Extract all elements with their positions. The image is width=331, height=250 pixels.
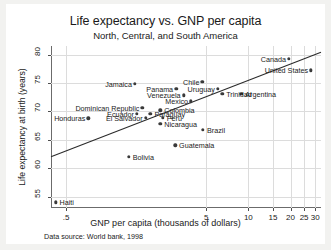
x-tick-mark: [66, 208, 67, 211]
data-point-label: Canada: [261, 54, 286, 63]
y-axis-title: Life expectancy at birth (years): [17, 46, 29, 208]
y-tick-label: 65: [33, 132, 42, 148]
y-tick-mark: [48, 55, 51, 56]
chart-subtitle: North, Central, and South America: [6, 30, 325, 41]
chart-card: Life expectancy vs. GNP per capita North…: [6, 4, 325, 244]
x-tick-mark: [315, 208, 316, 211]
x-tick-mark: [273, 208, 274, 211]
data-point-label: Nicaragua: [164, 119, 197, 128]
data-point-label: Guatemala: [179, 141, 214, 150]
data-point-label: Mexico: [165, 97, 188, 106]
y-tick-label: 55: [33, 189, 42, 205]
x-tick-mark: [304, 208, 305, 211]
data-point-label: Jamaica: [105, 80, 132, 89]
data-point-label: Trinidad: [226, 89, 252, 98]
x-tick-mark: [206, 208, 207, 211]
y-tick-label: 75: [33, 75, 42, 91]
chart-figure: Life expectancy vs. GNP per capita North…: [0, 0, 331, 250]
x-tick-mark: [291, 208, 292, 211]
data-point-label: Bolivia: [133, 152, 154, 161]
data-point-label: Haiti: [60, 198, 74, 207]
chart-title: Life expectancy vs. GNP per capita: [6, 14, 325, 28]
y-tick-label: 80: [33, 47, 42, 63]
data-point-label: United States: [265, 66, 308, 75]
y-tick-mark: [48, 111, 51, 112]
data-point-label: Honduras: [54, 114, 85, 123]
y-tick-label: 70: [33, 103, 42, 119]
y-tick-mark: [48, 83, 51, 84]
y-tick-mark: [48, 168, 51, 169]
y-tick-mark: [48, 140, 51, 141]
plot-area: CanadaUnited StatesChileJamaicaPanamaUru…: [51, 46, 321, 208]
x-axis-title: GNP per capita (thousands of dollars): [6, 218, 325, 228]
data-point-label: Brazil: [207, 125, 225, 134]
data-point-label: Uruguay: [188, 84, 215, 93]
x-tick-mark: [248, 208, 249, 211]
y-tick-mark: [48, 197, 51, 198]
data-point-label: El Salvador: [106, 113, 143, 122]
y-tick-label: 60: [33, 160, 42, 176]
data-source-note: Data source: World bank, 1998: [44, 232, 143, 241]
